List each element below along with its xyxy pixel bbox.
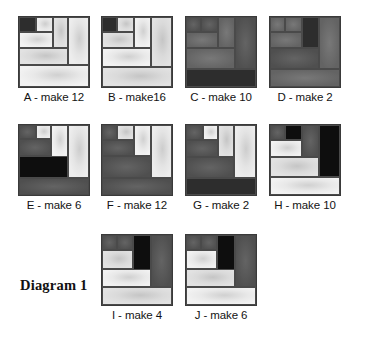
block-caption-a: A - make 12 xyxy=(13,91,95,103)
patch-top-black-square xyxy=(285,125,302,140)
patch-top-left-square xyxy=(270,125,285,140)
patch-mid-light-bar xyxy=(186,269,235,287)
patch-mid-dark-bar xyxy=(186,157,234,178)
patch-right-tall-strip xyxy=(151,125,172,178)
patch-bottom-full-bar xyxy=(186,287,256,305)
patch-upper-left-bar xyxy=(102,140,134,155)
patch-top-left-square xyxy=(186,125,203,140)
patch-right-gray-strip xyxy=(151,235,172,287)
patch-bottom-full-bar xyxy=(19,178,89,195)
patch-top-mid-square xyxy=(201,17,218,32)
patch-right-black-strip xyxy=(319,125,340,177)
patch-center-strip xyxy=(134,17,151,48)
patch-bottom-full-bar xyxy=(186,178,256,195)
patch-upper-left-bar xyxy=(186,32,218,47)
quilt-block-f xyxy=(101,124,173,196)
patch-top-mid-square xyxy=(36,17,53,32)
diagram-canvas: A - make 12 B - make16 C - make 10 D - m… xyxy=(0,0,367,339)
patch-center-light-strip xyxy=(51,125,68,157)
block-cell-c: C - make 10 xyxy=(180,16,262,103)
patch-top-left-square xyxy=(19,17,36,32)
patch-top-mid-square xyxy=(201,235,216,250)
block-cell-b: B - make16 xyxy=(96,16,178,103)
patch-top-left-square xyxy=(102,125,117,140)
quilt-block-e xyxy=(18,124,90,196)
block-caption-g: G - make 2 xyxy=(180,199,262,211)
block-caption-c: C - make 10 xyxy=(180,91,262,103)
patch-top-left-square xyxy=(270,17,285,32)
patch-top-left-square xyxy=(102,17,117,32)
patch-right-tall-strip xyxy=(68,125,89,178)
patch-mid-black-bar xyxy=(19,156,68,178)
patch-center-black-strip xyxy=(217,235,235,270)
patch-top-left-square xyxy=(102,235,117,250)
patch-mid-wide-bar xyxy=(102,48,151,68)
patch-mid-wide-bar xyxy=(186,48,235,69)
patch-top-left-square xyxy=(186,17,201,32)
block-cell-d: D - make 2 xyxy=(264,16,346,103)
patch-center-light-strip xyxy=(134,125,151,156)
patch-tall-center-strip xyxy=(53,17,68,48)
patch-upper-left-bar xyxy=(19,139,51,156)
patch-top-mid-square xyxy=(285,17,302,32)
patch-top-mid-square xyxy=(117,125,134,140)
block-cell-h: H - make 10 xyxy=(264,124,346,211)
quilt-block-g xyxy=(185,124,257,196)
quilt-block-i xyxy=(101,234,173,306)
patch-top-mid-square xyxy=(117,17,134,32)
patch-bottom-full-bar xyxy=(102,67,172,87)
patch-bottom-full-bar xyxy=(102,287,172,305)
patch-right-tall-strip xyxy=(235,17,256,69)
patch-right-gray-strip xyxy=(235,235,256,287)
patch-upper-light-bar xyxy=(270,140,302,157)
patch-right-tall-strip xyxy=(68,17,89,65)
patch-bottom-full-bar xyxy=(19,65,89,87)
patch-top-mid-square xyxy=(36,125,51,139)
patch-upper-left-bar xyxy=(186,140,218,157)
patch-mid-wide-bar xyxy=(270,48,319,69)
quilt-block-j xyxy=(185,234,257,306)
patch-top-mid-square xyxy=(117,235,132,250)
patch-top-mid-square xyxy=(203,125,218,140)
patch-center-black-strip xyxy=(133,235,151,270)
patch-upper-left-bar xyxy=(102,32,134,47)
quilt-block-b xyxy=(101,16,173,88)
quilt-block-h xyxy=(269,124,341,196)
block-caption-b: B - make16 xyxy=(96,91,178,103)
block-caption-f: F - make 12 xyxy=(96,199,178,211)
patch-bottom-full-bar xyxy=(186,69,256,87)
patch-center-strip xyxy=(218,17,235,48)
block-cell-j: J - make 6 xyxy=(180,234,262,321)
block-cell-e: E - make 6 xyxy=(13,124,95,211)
patch-bottom-full-bar xyxy=(270,69,340,87)
patch-bottom-full-bar xyxy=(102,178,172,195)
patch-top-left-square xyxy=(19,125,36,139)
patch-center-dark-strip xyxy=(302,17,319,48)
block-cell-a: A - make 12 xyxy=(13,16,95,103)
patch-top-left-square xyxy=(186,235,201,250)
patch-upper-light-bar xyxy=(102,250,133,268)
patch-mid-wide-bar xyxy=(19,48,68,65)
block-cell-f: F - make 12 xyxy=(96,124,178,211)
patch-right-tall-strip xyxy=(151,17,172,67)
block-caption-i: I - make 4 xyxy=(96,309,178,321)
quilt-block-c xyxy=(185,16,257,88)
quilt-block-a xyxy=(18,16,90,88)
patch-upper-light-bar xyxy=(186,250,217,268)
block-caption-j: J - make 6 xyxy=(180,309,262,321)
patch-center-gray-strip xyxy=(302,125,319,157)
block-caption-h: H - make 10 xyxy=(264,199,346,211)
patch-mid-dark-bar xyxy=(102,156,151,178)
patch-upper-mid-left-rect xyxy=(19,32,53,47)
patch-bottom-full-bar xyxy=(270,177,340,195)
patch-upper-left-bar xyxy=(270,32,302,47)
quilt-block-d xyxy=(269,16,341,88)
patch-right-tall-strip xyxy=(319,17,340,69)
block-caption-d: D - make 2 xyxy=(264,91,346,103)
block-cell-g: G - make 2 xyxy=(180,124,262,211)
patch-mid-light-bar xyxy=(270,157,319,177)
block-caption-e: E - make 6 xyxy=(13,199,95,211)
patch-center-light-strip xyxy=(218,125,233,157)
diagram-title: Diagram 1 xyxy=(20,277,112,294)
patch-right-tall-strip xyxy=(234,125,256,178)
